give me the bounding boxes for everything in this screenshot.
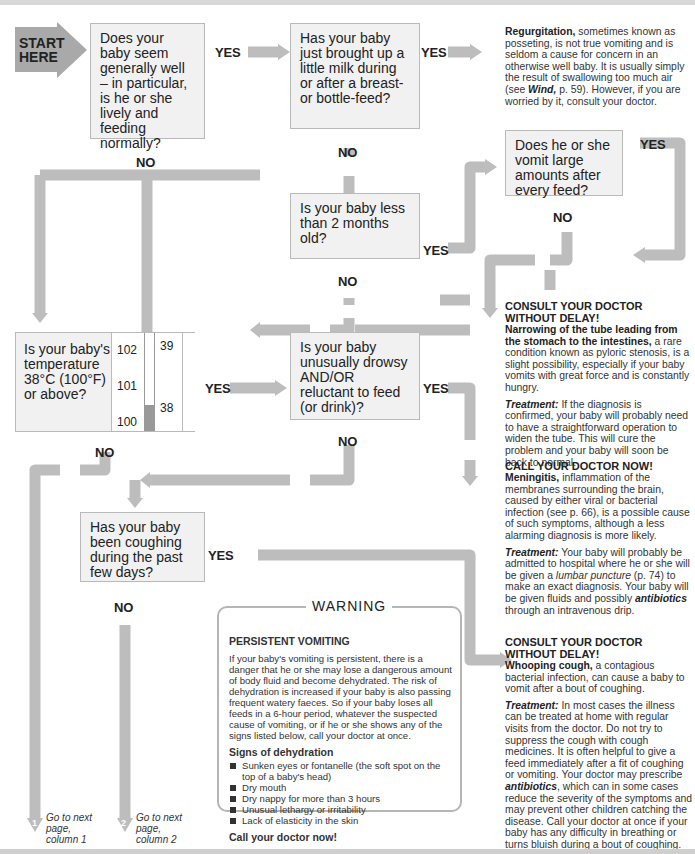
goto-next-page-col2[interactable]: Go to next page, column 2 bbox=[136, 812, 196, 845]
no-label: NO bbox=[338, 145, 357, 160]
sign-item: Sunken eyes or fontanelle (the soft spot… bbox=[229, 760, 452, 782]
outcome-heading: CONSULT YOUR DOCTOR WITHOUT DELAY! bbox=[505, 300, 693, 324]
yes-label: YES bbox=[421, 45, 446, 60]
question-text: Does your baby seem generally well – in … bbox=[100, 30, 187, 151]
signs-heading: Signs of dehydration bbox=[229, 747, 452, 758]
outcome-title: Whooping cough, bbox=[505, 660, 593, 671]
start-label: START HERE bbox=[19, 36, 87, 64]
cross-reference: antibiotics bbox=[505, 781, 557, 792]
yes-label: YES bbox=[423, 381, 448, 396]
yes-label: YES bbox=[208, 548, 233, 563]
sign-item: Lack of elasticity in the skin bbox=[229, 815, 452, 826]
yes-label: YES bbox=[205, 381, 230, 396]
no-label: NO bbox=[553, 210, 572, 225]
no-label: NO bbox=[95, 445, 114, 460]
no-label: NO bbox=[114, 600, 133, 615]
question-less-than-2-months: Is your baby less than 2 months old? bbox=[290, 193, 420, 259]
sign-item: Dry mouth bbox=[229, 782, 452, 793]
sign-item: Unusual lethargy or irritability bbox=[229, 804, 452, 815]
warning-footer: Call your doctor now! bbox=[229, 832, 452, 843]
yes-label: YES bbox=[423, 243, 448, 258]
outcome-title: Regurgitation, bbox=[505, 26, 575, 37]
fahrenheit-tick: 102 bbox=[117, 343, 137, 358]
fahrenheit-tick: 100 bbox=[117, 415, 137, 430]
no-label: NO bbox=[338, 274, 357, 289]
outcome-title: Meningitis, bbox=[505, 472, 559, 483]
treatment-label: Treatment: bbox=[505, 700, 559, 711]
warning-heading: PERSISTENT VOMITING bbox=[229, 636, 452, 647]
warning-title: WARNING bbox=[306, 598, 392, 614]
question-text: Is your baby less than 2 months old? bbox=[300, 200, 405, 246]
bottom-band bbox=[0, 849, 695, 854]
sign-item: Dry nappy for more than 3 hours bbox=[229, 793, 452, 804]
celsius-tick: 39 bbox=[160, 339, 173, 354]
outcome-heading: CALL YOUR DOCTOR NOW! bbox=[505, 460, 693, 472]
goto-next-page-col1[interactable]: Go to next page, column 1 bbox=[46, 812, 106, 845]
question-text: Is your baby unusually drowsy AND/OR rel… bbox=[300, 339, 407, 415]
yes-label: YES bbox=[215, 45, 240, 60]
cross-reference: Wind, bbox=[528, 84, 556, 95]
outcome-whooping-cough: CONSULT YOUR DOCTOR WITHOUT DELAY! Whoop… bbox=[505, 636, 693, 854]
question-text: Has your baby been coughing during the p… bbox=[90, 519, 183, 580]
treatment-label: Treatment: bbox=[505, 547, 559, 558]
goto-number: 2 bbox=[121, 818, 126, 828]
yes-label: YES bbox=[640, 137, 665, 152]
thermometer-scale: 102 101 100 39 38 bbox=[111, 333, 196, 431]
start-here-marker: START HERE bbox=[15, 22, 87, 78]
goto-number: 1 bbox=[32, 818, 37, 828]
cross-reference: antibiotics bbox=[635, 593, 687, 604]
question-vomit-large-amounts: Does he or she vomit large amounts after… bbox=[505, 130, 623, 196]
outcome-pyloric-stenosis: CONSULT YOUR DOCTOR WITHOUT DELAY! Narro… bbox=[505, 300, 693, 473]
no-label: NO bbox=[136, 155, 155, 170]
question-temperature: Is your baby's temperature 38°C (100°F) … bbox=[15, 332, 195, 432]
outcome-heading: CONSULT YOUR DOCTOR WITHOUT DELAY! bbox=[505, 636, 693, 660]
outcome-regurgitation: Regurgitation, sometimes known as posset… bbox=[505, 26, 690, 107]
treatment-text: through an intravenous drip. bbox=[505, 605, 634, 616]
treatment-text: In most cases the illness can be treated… bbox=[505, 700, 683, 781]
question-text: Does he or she vomit large amounts after… bbox=[515, 137, 610, 198]
question-brought-up-milk: Has your baby just brought up a little m… bbox=[290, 23, 420, 129]
question-generally-well: Does your baby seem generally well – in … bbox=[90, 23, 205, 139]
cross-reference: lumbar puncture bbox=[556, 570, 631, 581]
warning-body: If your baby's vomiting is persistent, t… bbox=[229, 653, 452, 741]
question-drowsy-reluctant: Is your baby unusually drowsy AND/OR rel… bbox=[290, 332, 420, 420]
signs-list: Sunken eyes or fontanelle (the soft spot… bbox=[229, 760, 452, 826]
celsius-tick: 38 bbox=[160, 401, 173, 416]
question-coughing: Has your baby been coughing during the p… bbox=[80, 512, 205, 582]
treatment-label: Treatment: bbox=[505, 399, 559, 410]
mercury-column bbox=[145, 405, 154, 431]
question-text: Is your baby's temperature 38°C (100°F) … bbox=[24, 342, 114, 402]
no-label: NO bbox=[338, 434, 357, 449]
fahrenheit-tick: 101 bbox=[117, 379, 137, 394]
question-text: Has your baby just brought up a little m… bbox=[300, 30, 404, 106]
warning-box: WARNING PERSISTENT VOMITING If your baby… bbox=[217, 606, 462, 812]
outcome-meningitis: CALL YOUR DOCTOR NOW! Meningitis, inflam… bbox=[505, 460, 693, 621]
